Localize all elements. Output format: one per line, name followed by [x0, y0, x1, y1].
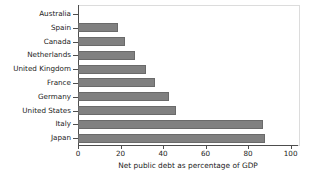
bar-row	[78, 131, 265, 145]
x-tick-label-40: 40	[158, 150, 167, 157]
x-tick-label-100: 100	[284, 150, 298, 157]
bar-chart-figure: 020406080100 AustraliaSpainCanadaNetherl…	[0, 0, 315, 181]
bar-spain	[78, 23, 118, 32]
bar-row	[78, 48, 135, 62]
y-tick-mark	[73, 28, 78, 29]
y-tick-mark	[73, 111, 78, 112]
y-tick-label-netherlands: Netherlands	[27, 52, 71, 59]
bar-row	[78, 62, 146, 76]
plot-area: AustraliaSpainCanadaNetherlandsUnited Ki…	[78, 7, 297, 145]
x-tick-label-80: 80	[244, 150, 253, 157]
x-axis-line: 020406080100	[78, 145, 298, 146]
bar-japan	[78, 134, 265, 143]
bar-germany	[78, 92, 169, 101]
y-tick-label-germany: Germany	[38, 93, 71, 100]
y-tick-label-spain: Spain	[51, 24, 71, 31]
y-tick-label-australia: Australia	[39, 10, 71, 17]
x-tick-label-20: 20	[116, 150, 125, 157]
y-tick-mark	[73, 97, 78, 98]
bar-row	[78, 21, 118, 35]
bar-italy	[78, 120, 263, 129]
bar-row	[78, 76, 155, 90]
bar-united-states	[78, 106, 176, 115]
y-tick-label-japan: Japan	[51, 134, 71, 141]
y-tick-label-united-states: United States	[22, 107, 71, 114]
bar-row	[78, 117, 263, 131]
y-tick-label-france: France	[47, 79, 71, 86]
y-tick-label-canada: Canada	[44, 38, 71, 45]
bar-france	[78, 78, 155, 87]
bar-row	[78, 90, 169, 104]
bar-canada	[78, 37, 125, 46]
y-tick-mark	[73, 124, 78, 125]
bar-row	[78, 104, 176, 118]
x-tick-label-60: 60	[201, 150, 210, 157]
y-tick-mark	[73, 14, 78, 15]
bar-row	[78, 35, 125, 49]
bar-united-kingdom	[78, 65, 146, 74]
y-tick-mark	[73, 55, 78, 56]
x-tick-label-0: 0	[76, 150, 81, 157]
x-axis-title: Net public debt as percentage of GDP	[78, 161, 298, 170]
bar-netherlands	[78, 51, 135, 60]
y-tick-label-united-kingdom: United Kingdom	[13, 65, 71, 72]
y-tick-mark	[73, 42, 78, 43]
y-tick-mark	[73, 69, 78, 70]
y-tick-mark	[73, 138, 78, 139]
y-tick-mark	[73, 83, 78, 84]
chart-title-clipped	[78, 0, 297, 2]
y-tick-label-italy: Italy	[55, 121, 71, 128]
